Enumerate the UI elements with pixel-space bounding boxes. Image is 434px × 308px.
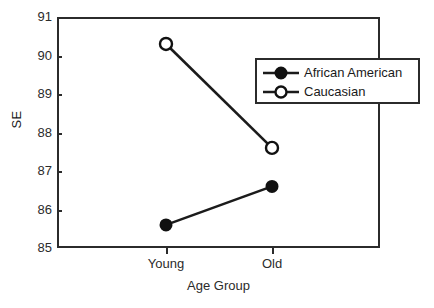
- y-tick-label-87: 87: [16, 164, 52, 177]
- y-tick-label-91: 91: [16, 10, 52, 23]
- y-tick-label-90: 90: [16, 49, 52, 62]
- x-tick-label-old: Old: [227, 256, 317, 271]
- y-tick-mark-90: [57, 56, 62, 58]
- x-tick-mark-old: [272, 248, 274, 254]
- y-tick-label-86: 86: [16, 203, 52, 216]
- y-tick-mark-86: [57, 210, 62, 212]
- x-tick-mark-young: [166, 248, 168, 254]
- legend-marker-open-circle-icon: [261, 83, 301, 101]
- y-tick-label-88: 88: [16, 126, 52, 139]
- legend-label-african-american: African American: [301, 66, 402, 79]
- y-axis-tick-labels: 91 90 89 88 87 86 85: [14, 0, 52, 308]
- y-tick-label-85: 85: [16, 241, 52, 254]
- interaction-plot-figure: SE 91 90 89 88 87 86 85 Young Old Age Gr…: [0, 0, 434, 308]
- y-tick-mark-89: [57, 94, 62, 96]
- chart-legend: African American Caucasian: [255, 58, 420, 104]
- legend-entry-caucasian: Caucasian: [261, 82, 414, 101]
- legend-label-caucasian: Caucasian: [301, 85, 365, 98]
- x-axis-title: Age Group: [57, 278, 380, 293]
- legend-marker-filled-circle-icon: [261, 64, 301, 82]
- x-tick-label-young: Young: [121, 256, 211, 271]
- y-tick-mark-88: [57, 133, 62, 135]
- y-tick-mark-87: [57, 171, 62, 173]
- plot-area-frame: [57, 17, 380, 248]
- y-tick-label-89: 89: [16, 87, 52, 100]
- legend-entry-african-american: African American: [261, 63, 414, 82]
